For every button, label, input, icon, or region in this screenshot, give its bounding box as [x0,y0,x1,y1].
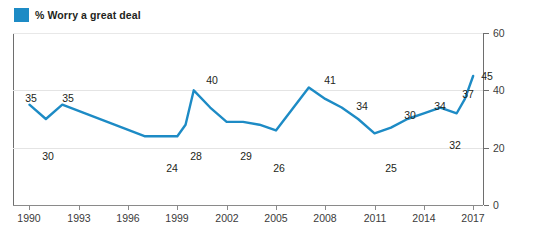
x-axis-tick-label: 2002 [215,213,238,224]
x-axis-tick [29,206,30,210]
y-axis-tick [484,148,489,149]
y-axis-tick-label: 20 [493,143,505,154]
x-axis-tick-label: 1993 [67,213,90,224]
y-axis-tick-label: 40 [493,85,505,96]
x-axis-tick-label: 2014 [412,213,435,224]
y-axis-tick [484,33,489,34]
chart-legend: % Worry a great deal [14,6,141,24]
x-axis-tick [473,206,474,210]
data-point-label: 34 [356,101,368,112]
data-point-label: 34 [434,101,446,112]
data-point-label: 35 [62,93,74,104]
data-point-label: 29 [240,151,252,162]
x-axis-tick-label: 2005 [264,213,287,224]
x-axis-tick-label: 2011 [364,213,387,224]
x-axis-tick-label: 1996 [116,213,139,224]
x-axis-tick [325,206,326,210]
data-point-label: 35 [25,93,37,104]
data-point-label: 30 [404,110,416,121]
x-axis-tick [79,206,80,210]
x-axis-tick-label: 1990 [17,213,40,224]
x-axis-tick [128,206,129,210]
x-axis-tick-label: 2017 [461,213,484,224]
legend-square-icon [14,8,29,22]
x-axis-tick-label: 2008 [313,213,336,224]
data-point-label: 40 [206,75,218,86]
y-axis-tick-label: 0 [493,200,499,211]
data-point-label: 25 [385,163,397,174]
legend-label: % Worry a great deal [35,10,141,21]
data-point-label: 26 [273,163,285,174]
data-point-label: 32 [449,140,461,151]
data-point-label: 28 [190,151,202,162]
x-axis-tick [177,206,178,210]
x-axis-tick [424,206,425,210]
data-point-label: 37 [462,89,474,100]
x-axis-tick [227,206,228,210]
data-point-label: 41 [324,75,336,86]
y-axis-tick [484,90,489,91]
x-axis-tick [276,206,277,210]
data-point-label: 45 [481,71,493,82]
data-point-label: 30 [42,151,54,162]
y-axis-right-line [483,33,484,205]
x-axis-tick-label: 1999 [165,213,188,224]
y-axis-tick [484,205,489,206]
x-axis-tick [375,206,376,210]
chart-container: % Worry a great deal 0204060 19901993199… [0,0,534,238]
y-axis-tick-label: 60 [493,28,505,39]
x-axis-line [13,205,483,206]
data-point-label: 24 [166,163,178,174]
